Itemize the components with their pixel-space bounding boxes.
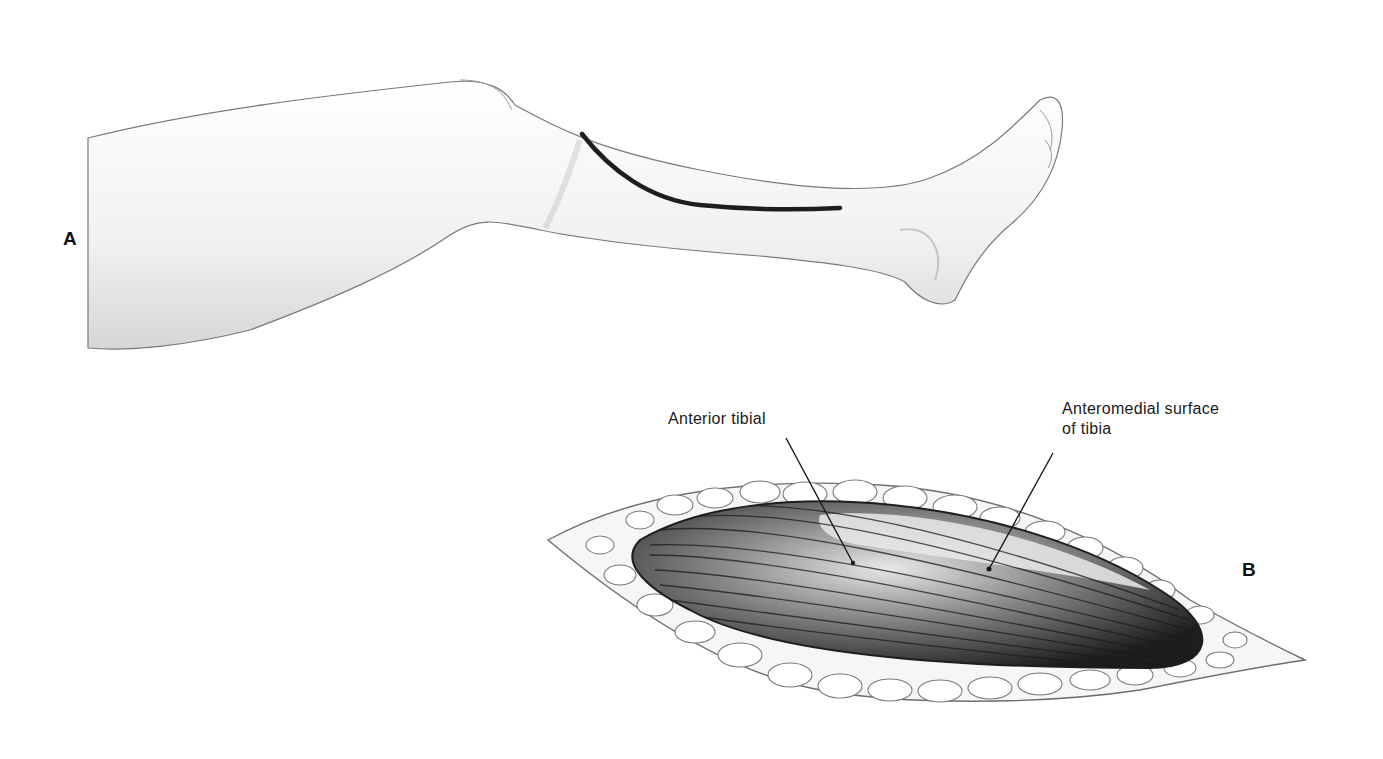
wound-exposure-illustration	[548, 438, 1305, 702]
callout-text: Anterior tibial	[668, 410, 766, 427]
figure-artwork	[0, 0, 1383, 759]
leg-illustration	[88, 80, 1063, 349]
panel-label-a: A	[63, 228, 77, 250]
callout-anteromedial-surface: Anteromedial surface of tibia	[1062, 399, 1219, 439]
panel-label-b: B	[1242, 559, 1256, 581]
callout-line-2: of tibia	[1062, 419, 1219, 439]
callout-line-1: Anteromedial surface	[1062, 399, 1219, 419]
callout-anterior-tibial: Anterior tibial	[668, 409, 766, 429]
